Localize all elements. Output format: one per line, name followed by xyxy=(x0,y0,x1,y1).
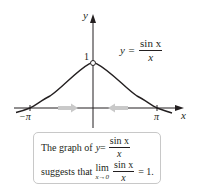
y-tick-label-1: 1 xyxy=(84,52,89,62)
caption-line-1-prefix: The graph of xyxy=(41,142,93,153)
x-tick-label-neg-pi: −π xyxy=(19,112,31,122)
caption-line-2-prefix: suggests that xyxy=(41,166,92,177)
function-equation-label: y = sin x x xyxy=(120,38,162,63)
sinc-curve-left-smooth xyxy=(30,63,90,108)
limit-operator: lim x→0 xyxy=(95,163,109,181)
sinc-curve xyxy=(16,108,172,113)
sinc-curve-right-smooth xyxy=(96,63,157,108)
caption-line-1-fraction: sin x x xyxy=(109,136,130,159)
limit-subscript: x→0 xyxy=(95,174,109,181)
caption-line-2-suffix: = 1. xyxy=(138,166,154,177)
approach-from-right-arrow-icon xyxy=(108,104,128,113)
caption-line-1: The graph of y = sin x x xyxy=(41,136,130,159)
caption-line-2: suggests that lim x→0 sin x x = 1. xyxy=(41,160,154,183)
x-tick-label-pi: π xyxy=(154,112,159,122)
caption-line-1-equals: = xyxy=(100,142,106,153)
equation-fraction: sin x x xyxy=(139,38,162,63)
equation-numerator: sin x xyxy=(139,38,162,51)
equation-prefix: y = xyxy=(120,45,135,56)
caption-line-2-denominator: x xyxy=(121,172,125,183)
limit-word: lim xyxy=(96,163,109,173)
y-axis-arrowhead-icon xyxy=(90,14,96,23)
open-circle-hole-icon xyxy=(91,61,96,66)
caption-line-1-numerator: sin x xyxy=(109,136,130,148)
caption-line-2-fraction: sin x x xyxy=(113,160,134,183)
y-axis-label: y xyxy=(83,10,88,21)
caption-line-1-denominator: x xyxy=(117,148,121,159)
caption-box: The graph of y = sin x x suggests that l… xyxy=(33,132,161,184)
x-axis-label: x xyxy=(181,110,186,121)
equation-denominator: x xyxy=(148,51,153,63)
caption-line-2-numerator: sin x xyxy=(113,160,134,172)
approach-from-left-arrow-icon xyxy=(58,104,78,113)
